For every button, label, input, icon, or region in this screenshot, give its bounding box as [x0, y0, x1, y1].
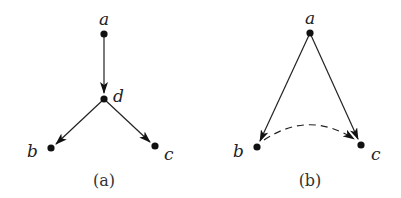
- edge-d-b: [56, 99, 104, 144]
- label-d: d: [113, 86, 124, 106]
- node-b: [47, 144, 54, 151]
- edge-a-c: [310, 33, 358, 139]
- label-b: b: [27, 141, 38, 161]
- caption-a: (a): [93, 171, 115, 190]
- node-a: [306, 29, 313, 36]
- panel-b: a b c (b): [233, 8, 381, 190]
- label-a: a: [99, 9, 109, 29]
- label-c: c: [371, 144, 381, 164]
- label-c: c: [164, 144, 174, 164]
- label-a: a: [305, 8, 315, 28]
- caption-b: (b): [299, 171, 322, 190]
- node-c: [357, 141, 364, 148]
- node-a: [100, 30, 107, 37]
- node-d: [100, 95, 107, 102]
- figure-canvas: a d b c (a) a b c (b): [0, 0, 401, 198]
- edge-d-c: [104, 99, 150, 142]
- edge-b-c-dashed: [264, 125, 354, 140]
- node-b: [253, 143, 260, 150]
- label-b: b: [233, 141, 244, 161]
- panel-a: a d b c (a): [27, 9, 174, 190]
- node-c: [151, 142, 158, 149]
